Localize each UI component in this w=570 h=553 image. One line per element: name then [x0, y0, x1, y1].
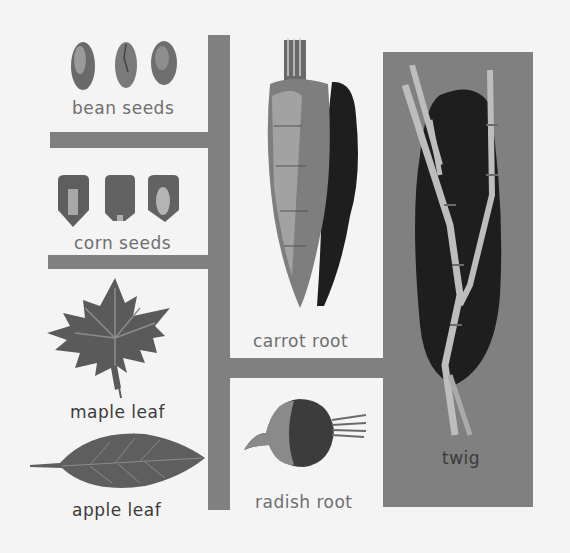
- apple-leaf-image: [30, 428, 205, 493]
- maple-leaf-label: maple leaf: [70, 402, 165, 422]
- bean-seeds-label: bean seeds: [72, 98, 174, 118]
- maple-leaf-image: [45, 278, 195, 403]
- bean-seeds-image: [68, 38, 183, 93]
- vertical-divider: [208, 35, 230, 510]
- radish-root-label: radish root: [255, 492, 353, 512]
- corn-seeds-image: [55, 175, 180, 230]
- carrot-root-image: [262, 36, 362, 316]
- divider-below-carrot: [228, 358, 385, 378]
- divider-below-beans: [50, 132, 210, 148]
- apple-leaf-label: apple leaf: [72, 500, 161, 520]
- carrot-root-label: carrot root: [253, 331, 348, 351]
- divider-below-corn: [48, 255, 210, 269]
- twig-image: [400, 65, 510, 440]
- corn-seeds-label: corn seeds: [74, 233, 171, 253]
- twig-label: twig: [442, 448, 480, 468]
- radish-root-image: [244, 395, 369, 470]
